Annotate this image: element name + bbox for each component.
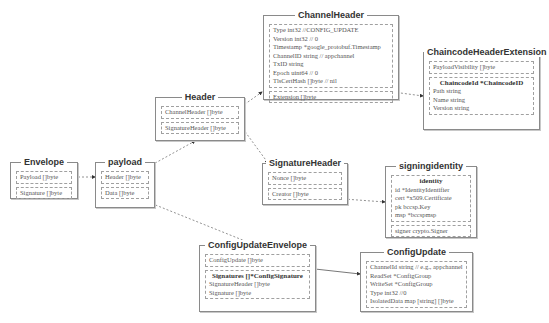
identity-line: msp *bccspmsp (395, 211, 467, 220)
chaincode-id-line: Path string (433, 87, 530, 96)
envelope-field-signature: Signature []byte (16, 187, 72, 200)
envelope-field-payload: Payload []byte (16, 171, 72, 184)
configupdate-line: IsolatedData map [string] []byte (370, 297, 463, 306)
identity-group: identity id *IdentityIdentifier cert *x5… (391, 175, 471, 222)
signatureheader-field-nonce: Nonce []byte (268, 172, 342, 185)
channelheader-line: TxID string (273, 60, 389, 69)
payload-field-data: Data []byte (101, 187, 149, 200)
signatureheader-title: SignatureHeader (266, 158, 344, 168)
header-box: Header ChannelHeader []byte SignatureHea… (155, 97, 245, 141)
configupdate-line: Type int32 //0 (370, 289, 463, 298)
configupdate-line: ChannelId string // e.g., appchannel (370, 263, 463, 272)
identity-title: identity (395, 177, 467, 186)
configupdate-box: ConfigUpdate ChannelId string // e.g., a… (360, 252, 473, 312)
configupdateenvelope-title: ConfigUpdateEnvelope (205, 240, 310, 250)
configupdate-group: ChannelId string // e.g., appchannel Rea… (366, 261, 467, 308)
chaincodeheaderextension-title: ChaincodeHeaderExtension (424, 47, 549, 57)
signatures-title: Signatures []*ConfigSignature (209, 272, 306, 281)
signatureheader-field-creator: Creator []byte (268, 188, 342, 201)
envelope-box: Envelope Payload []byte Signature []byte (10, 162, 78, 199)
header-title: Header (182, 92, 219, 102)
envelope-title: Envelope (21, 157, 67, 167)
configupdateenvelope-field-configupdate: ConfigUpdate []byte (205, 254, 310, 267)
chaincode-id-title: ChaincodeId *ChaincodeID (433, 79, 530, 88)
signatures-line: SignatureHeader []byte (209, 280, 306, 289)
configupdate-line: ReadSet *ConfigGroup (370, 272, 463, 281)
signatureheader-box: SignatureHeader Nonce []byte Creator []b… (262, 163, 348, 205)
signingidentity-title: signingidentity (396, 161, 466, 171)
chaincode-id-group: ChaincodeId *ChaincodeID Path string Nam… (429, 77, 534, 115)
payload-box: payload Header []byte Data []byte (95, 162, 155, 208)
header-field-signatureheader: SignatureHeader []byte (161, 122, 239, 135)
channelheader-line: Type int32 //CONFIG_UPDATE (273, 26, 389, 35)
header-field-channelheader: ChannelHeader []byte (161, 106, 239, 119)
payload-field-header: Header []byte (101, 171, 149, 184)
identity-line: pk bccsp.Key (395, 203, 467, 212)
edge-signatureheader-signingidentity (344, 199, 385, 202)
chaincode-id-line: Name string (433, 96, 530, 105)
channelheader-box: ChannelHeader Type int32 //CONFIG_UPDATE… (263, 15, 399, 100)
channelheader-line: ChannelID string // appchannel (273, 52, 389, 61)
signatures-line: Signature []byte (209, 289, 306, 298)
channelheader-field-extension: Extension []byte (269, 91, 393, 104)
configupdate-line: WriteSet *ConfigGroup (370, 280, 463, 289)
channelheader-line: Epoch uint64 // 0 (273, 69, 389, 78)
chaincodeheaderextension-box: ChaincodeHeaderExtension PayloadVisibili… (423, 52, 540, 130)
identity-line: cert *x509.Certificate (395, 194, 467, 203)
chaincode-field-payloadvisibility: PayloadVisibility []byte (429, 61, 534, 74)
channelheader-group: Type int32 //CONFIG_UPDATE Version int32… (269, 24, 393, 88)
signingidentity-box: signingidentity identity id *IdentityIde… (385, 166, 477, 238)
channelheader-line: TlsCertHash []byte // nil (273, 77, 389, 86)
payload-title: payload (105, 157, 145, 167)
configupdate-title: ConfigUpdate (384, 247, 449, 257)
edge-payload-header (148, 141, 195, 167)
channelheader-line: Version int32 // 0 (273, 35, 389, 44)
signingidentity-field-signer: signer crypto.Signer (391, 225, 471, 238)
identity-line: id *IdentityIdentifier (395, 186, 467, 195)
channelheader-title: ChannelHeader (295, 10, 367, 20)
channelheader-line: Timestamp *google_protobuf.Timestamp (273, 43, 389, 52)
signatures-group: Signatures []*ConfigSignature SignatureH… (205, 270, 310, 300)
configupdateenvelope-box: ConfigUpdateEnvelope ConfigUpdate []byte… (199, 245, 316, 312)
chaincode-id-line: Version string (433, 104, 530, 113)
